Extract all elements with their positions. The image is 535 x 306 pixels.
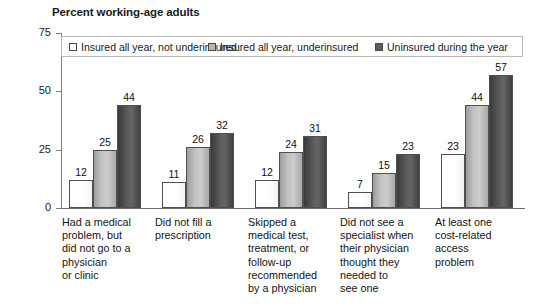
bar-series2: 25 — [93, 150, 117, 208]
bar-value-label: 31 — [309, 123, 321, 134]
y-tick-mark — [56, 208, 61, 209]
category-label-1: Did not fill a prescription — [155, 216, 243, 242]
category-label-3: Did not see a specialist when their phys… — [340, 216, 434, 295]
y-tick-mark — [56, 150, 61, 151]
category-label-4: At least one cost-related access problem — [435, 216, 527, 269]
bar-series2: 24 — [279, 152, 303, 208]
bar-series2: 15 — [372, 173, 396, 208]
bar-series1: 11 — [162, 182, 186, 208]
bar-value-label: 44 — [123, 92, 135, 103]
y-tick-label: 0 — [11, 202, 51, 213]
bar-value-label: 23 — [402, 141, 414, 152]
bar-value-label: 24 — [285, 139, 297, 150]
y-tick-label: 50 — [11, 85, 51, 96]
legend-label: Insured all year, underinsured — [220, 41, 358, 53]
bar-value-label: 44 — [471, 92, 483, 103]
bar-group: 23 44 57 — [441, 33, 521, 208]
bar-series2: 26 — [186, 147, 210, 208]
bar-series1: 23 — [441, 154, 465, 208]
y-axis-line — [61, 33, 62, 209]
bar-group: 12 24 31 — [255, 33, 335, 208]
legend-item-insured-underinsured[interactable]: Insured all year, underinsured — [208, 40, 358, 54]
legend-label: Uninsured during the year — [387, 41, 508, 53]
bar-value-label: 15 — [378, 160, 390, 171]
bar-value-label: 12 — [261, 167, 273, 178]
plot-area: 75 50 25 0 12 25 44 — [61, 33, 525, 209]
chart-legend: Insured all year, not underinsured Insur… — [61, 36, 523, 57]
bar-value-label: 23 — [447, 141, 459, 152]
bar-series1: 12 — [255, 180, 279, 208]
x-axis-line — [61, 208, 525, 209]
bar-series1: 12 — [69, 180, 93, 208]
bar-value-label: 26 — [192, 134, 204, 145]
bar-group: 11 26 32 — [162, 33, 242, 208]
category-label-2: Skipped a medical test, treatment, or fo… — [248, 216, 340, 295]
bar-group: 12 25 44 — [69, 33, 149, 208]
category-label-0: Had a medical problem, but did not go to… — [62, 216, 150, 282]
bar-series3: 44 — [117, 105, 141, 208]
bar-value-label: 57 — [495, 62, 507, 73]
bar-value-label: 12 — [75, 167, 87, 178]
bar-chart: Percent working-age adults 75 50 25 0 12 — [0, 0, 535, 306]
bar-group: 7 15 23 — [348, 33, 428, 208]
legend-swatch-dark-icon — [375, 43, 383, 51]
y-tick-mark — [56, 91, 61, 92]
bar-value-label: 11 — [169, 169, 180, 180]
bar-series2: 44 — [465, 105, 489, 208]
y-tick-label: 25 — [11, 144, 51, 155]
bar-value-label: 25 — [99, 137, 111, 148]
bar-series3: 32 — [210, 133, 234, 208]
chart-title: Percent working-age adults — [52, 6, 200, 18]
y-tick-label: 75 — [11, 27, 51, 38]
y-tick-mark — [56, 33, 61, 34]
legend-swatch-gray-icon — [208, 43, 216, 51]
bar-series3: 23 — [396, 154, 420, 208]
bar-series3: 57 — [489, 75, 513, 208]
legend-item-uninsured[interactable]: Uninsured during the year — [375, 40, 508, 54]
legend-swatch-white-icon — [69, 43, 77, 51]
bar-value-label: 32 — [216, 120, 228, 131]
bar-value-label: 7 — [357, 179, 363, 190]
bar-series3: 31 — [303, 136, 327, 208]
bar-series1: 7 — [348, 192, 372, 208]
